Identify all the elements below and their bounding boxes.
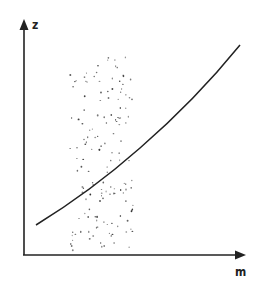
y-axis-label: z (32, 19, 38, 31)
x-axis-label: m (235, 266, 246, 278)
curve (36, 45, 240, 225)
x-axis-arrow-icon (235, 251, 246, 260)
diagram-canvas (0, 0, 254, 291)
stippled-band (69, 56, 133, 251)
y-axis-arrow-icon (20, 19, 29, 30)
